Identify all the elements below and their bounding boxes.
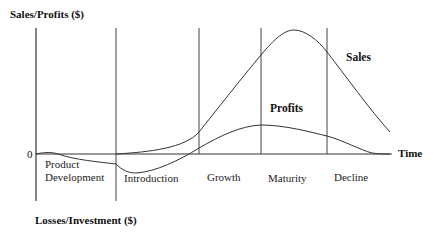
sales-label: Sales xyxy=(346,52,371,64)
profits-label: Profits xyxy=(270,103,303,115)
sales-curve xyxy=(116,30,390,154)
stage-label-product-development-line2: Development xyxy=(45,172,104,183)
stage-label-decline: Decline xyxy=(334,172,368,183)
profits-curve xyxy=(36,125,390,173)
stage-label-introduction: Introduction xyxy=(124,173,178,184)
zero-label: 0 xyxy=(27,149,33,160)
x-axis-label: Time xyxy=(398,148,422,159)
stage-label-product-development-line1: Product xyxy=(45,159,79,170)
y-axis-top-label: Sales/Profits ($) xyxy=(10,9,84,20)
stage-label-maturity: Maturity xyxy=(268,173,307,184)
stage-label-growth: Growth xyxy=(207,172,241,183)
y-axis-bottom-label: Losses/Investment ($) xyxy=(35,215,137,226)
life-cycle-diagram xyxy=(0,0,442,234)
